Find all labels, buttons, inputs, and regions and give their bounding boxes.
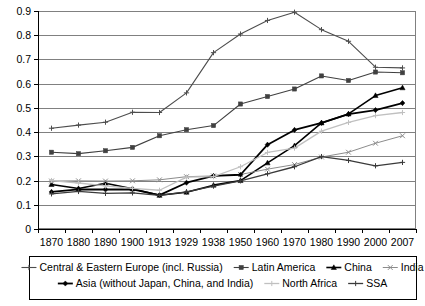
- y-axis-tick-label: 0.1: [16, 199, 31, 211]
- x-axis-tick-label: 1870: [40, 236, 64, 248]
- data-point-marker: [76, 122, 81, 127]
- y-axis-tick-label: 0.4: [16, 126, 31, 138]
- legend-item[interactable]: SSA: [348, 277, 387, 289]
- data-point-marker: [400, 85, 405, 90]
- legend-item[interactable]: Latin America: [234, 261, 316, 273]
- data-point-marker: [26, 265, 31, 270]
- legend-item[interactable]: Asia (without Japan, China, and India): [58, 277, 253, 289]
- data-point-marker: [157, 188, 162, 193]
- legend-item[interactable]: India: [383, 261, 424, 273]
- data-point-marker: [238, 102, 242, 106]
- data-point-marker: [239, 265, 243, 269]
- data-point-marker: [49, 126, 54, 131]
- data-point-marker: [76, 152, 80, 156]
- data-point-marker: [319, 74, 323, 78]
- data-point-marker: [265, 94, 269, 98]
- data-point-marker: [400, 160, 405, 165]
- legend-label: China: [344, 261, 372, 273]
- chart-legend[interactable]: Central & Eastern Europe (incl. Russia)L…: [21, 257, 423, 300]
- data-point-marker: [238, 164, 243, 169]
- data-point-marker: [49, 150, 53, 154]
- legend-item[interactable]: China: [326, 261, 372, 273]
- legend-item[interactable]: Central & Eastern Europe (incl. Russia): [21, 261, 222, 273]
- x-axis-tick-label: 1880: [67, 236, 91, 248]
- y-axis-tick-label: 0.2: [16, 175, 31, 187]
- x-axis-tick-label: 1990: [337, 236, 361, 248]
- y-axis-tick-label: 0.7: [16, 53, 31, 65]
- data-point-marker: [346, 78, 350, 82]
- data-point-marker: [346, 120, 351, 125]
- y-axis-tick-labels: 00.10.20.30.40.50.60.70.80.9: [16, 5, 31, 235]
- data-point-marker: [400, 71, 404, 75]
- data-point-marker: [211, 123, 215, 127]
- legend-item[interactable]: North Africa: [264, 277, 337, 289]
- legend-label: Central & Eastern Europe (incl. Russia): [39, 261, 222, 273]
- data-series: [49, 10, 405, 198]
- series-china: [49, 85, 405, 197]
- data-point-marker: [130, 145, 134, 149]
- legend-label: SSA: [366, 277, 387, 289]
- x-axis-tick-label: 1913: [148, 236, 172, 248]
- data-point-marker: [292, 87, 296, 91]
- x-axis-tick-label: 1970: [283, 236, 307, 248]
- data-point-marker: [103, 191, 108, 196]
- legend-label: Asia (without Japan, China, and India): [76, 277, 253, 289]
- y-axis-tick-label: 0.8: [16, 29, 31, 41]
- series-line: [52, 12, 403, 128]
- x-axis-tick-label: 2000: [364, 236, 388, 248]
- line-chart: 00.10.20.30.40.50.60.70.80.9 18701880189…: [0, 0, 425, 306]
- data-point-marker: [353, 281, 358, 286]
- y-axis-tick-label: 0.6: [16, 78, 31, 90]
- data-point-marker: [400, 110, 405, 115]
- x-axis-tick-label: 1960: [256, 236, 280, 248]
- x-axis-tick-label: 1900: [121, 236, 145, 248]
- x-axis-tick-label: 1950: [229, 236, 253, 248]
- x-axis-tick-label: 2007: [391, 236, 415, 248]
- y-axis-tick-label: 0.3: [16, 150, 31, 162]
- data-point-marker: [373, 70, 377, 74]
- data-point-marker: [265, 18, 270, 23]
- legend-label: Latin America: [252, 261, 316, 273]
- data-point-marker: [130, 110, 135, 115]
- data-point-marker: [400, 100, 405, 105]
- y-axis-tick-label: 0.5: [16, 102, 31, 114]
- data-point-marker: [184, 128, 188, 132]
- y-axis-tick-label: 0: [25, 223, 31, 235]
- data-point-marker: [211, 174, 216, 179]
- data-point-marker: [346, 158, 351, 163]
- data-point-marker: [265, 171, 270, 176]
- data-point-marker: [63, 281, 68, 286]
- x-axis-tick-label: 1980: [310, 236, 334, 248]
- data-point-marker: [103, 120, 108, 125]
- legend-label: North Africa: [282, 277, 337, 289]
- data-point-marker: [373, 113, 378, 118]
- data-point-marker: [265, 150, 270, 155]
- chart-figure: 00.10.20.30.40.50.60.70.80.9 18701880189…: [0, 0, 425, 306]
- series-line: [52, 136, 403, 181]
- data-point-marker: [269, 281, 274, 286]
- x-axis-tick-label: 1890: [94, 236, 118, 248]
- x-axis-tick-label: 1929: [175, 236, 199, 248]
- data-point-marker: [373, 163, 378, 168]
- x-axis-tick-label: 1938: [202, 236, 226, 248]
- data-point-marker: [130, 190, 135, 195]
- data-point-marker: [400, 65, 405, 70]
- y-axis-tick-label: 0.9: [16, 5, 31, 17]
- x-axis-tick-labels: 1870188018901900191319291938195019601970…: [40, 236, 415, 248]
- data-point-marker: [103, 149, 107, 153]
- data-point-marker: [184, 180, 189, 185]
- data-point-marker: [157, 134, 161, 138]
- legend-label: India: [401, 261, 424, 273]
